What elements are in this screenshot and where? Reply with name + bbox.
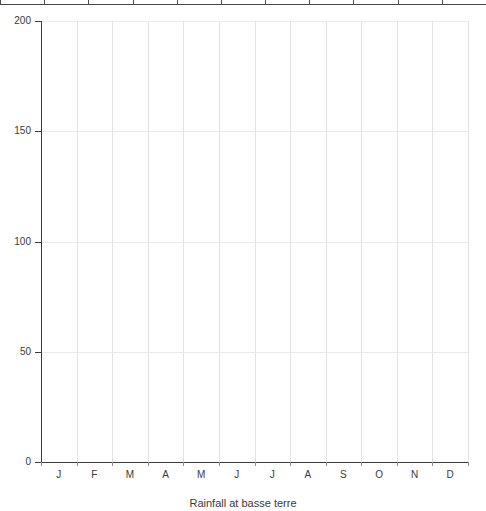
x-axis-tick-label: A [148,469,184,481]
y-axis-tick-label: 200 [0,16,31,26]
y-axis-line [41,21,42,463]
x-axis-tick-label: N [397,469,433,481]
x-axis-tick [255,462,256,466]
x-axis-tick [326,462,327,466]
y-axis-tick-label: 150 [0,126,31,136]
y-axis-tick-label: 100 [0,237,31,247]
x-axis-tick [77,462,78,466]
plot-area [41,21,468,462]
x-axis-tick [361,462,362,466]
x-axis-tick-label: A [290,469,326,481]
x-axis-tick [41,462,42,466]
y-axis-tick-label: 50 [0,347,31,357]
x-axis-tick-label: O [361,469,397,481]
chart-title: Rainfall at basse terre [0,496,486,510]
x-axis-tick-label: J [219,469,255,481]
x-axis-tick [432,462,433,466]
table-edge-tick [221,0,222,5]
x-axis-tick [112,462,113,466]
x-axis-tick-label: D [432,469,468,481]
gridline-horizontal [41,352,468,353]
table-edge-tick [88,0,89,5]
gridline-horizontal [41,242,468,243]
table-edge-line [0,4,486,5]
y-axis-tick-label: 0 [0,457,31,467]
x-axis-tick [183,462,184,466]
table-edge-tick [442,0,443,5]
gridline-horizontal [41,131,468,132]
table-edge-tick [44,0,45,5]
y-axis-tick-label-wrap: 0 [0,462,41,463]
x-axis-tick [468,462,469,466]
table-edge-tick [398,0,399,5]
x-axis-tick-label: M [112,469,148,481]
x-axis-tick-label: S [325,469,361,481]
x-axis-tick [397,462,398,466]
x-axis-tick-label: F [76,469,112,481]
x-axis-tick-label: M [183,469,219,481]
y-axis-tick-label-wrap: 100 [0,242,41,243]
x-axis-tick-label: J [254,469,290,481]
table-edge-tick [133,0,134,5]
x-axis-tick [290,462,291,466]
cut-off-table-edge [0,0,486,10]
table-edge-tick [353,0,354,5]
table-edge-tick [0,0,1,5]
rainfall-chart: 050100150200 JFMAMJJASOND Rainfall at ba… [0,14,486,511]
chart-page: 050100150200 JFMAMJJASOND Rainfall at ba… [0,0,486,511]
x-axis-tick [219,462,220,466]
x-axis-tick [148,462,149,466]
gridline-horizontal [41,21,468,22]
y-axis-tick-label-wrap: 150 [0,131,41,132]
x-axis-tick-label: J [41,469,77,481]
table-edge-tick [309,0,310,5]
table-edge-tick [177,0,178,5]
y-axis-tick-label-wrap: 200 [0,21,41,22]
y-axis-tick-label-wrap: 50 [0,352,41,353]
gridline-vertical [468,21,469,462]
table-edge-tick [265,0,266,5]
